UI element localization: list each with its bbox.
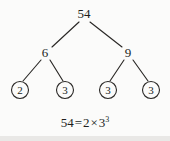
root-node-54: 54 [75,7,93,20]
edge-9-to-3-right [133,60,148,81]
factor-tree-figure: 54 6 9 2 3 3 3 54=2×33 [0,0,170,141]
leaf-node-3-second: 3 [99,85,117,96]
equation-factor-2: 2 [83,115,90,130]
branch-node-9: 9 [121,46,135,59]
edge-54-to-9 [90,22,122,47]
edge-54-to-6 [52,22,79,47]
equation-left-term: 54 [61,115,74,130]
leaf-node-3-first: 3 [56,85,74,96]
page-edge-artifact [0,136,170,141]
edge-6-to-2 [23,60,41,81]
factorization-equation: 54=2×33 [0,115,170,131]
edge-6-to-3 [50,60,63,81]
equation-equals-sign: = [74,115,83,130]
leaf-node-3-third: 3 [142,85,160,96]
branch-node-6: 6 [38,46,52,59]
edge-9-to-3-left [110,60,124,81]
leaf-circles [12,82,160,99]
equation-factor-3-exponent: 3 [105,115,109,124]
equation-multiply-sign: × [90,115,99,130]
leaf-node-2: 2 [11,85,29,96]
